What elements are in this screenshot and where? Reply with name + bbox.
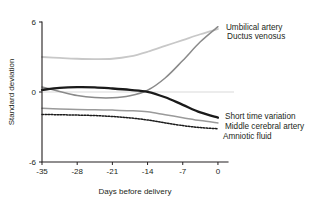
x-tick-label: -35 (36, 167, 48, 176)
series-label-ductus-venosus: Ductus venosus (227, 32, 285, 41)
x-axis-tick-labels: -35-28-21-14-70 (36, 162, 221, 176)
series-label-amniotic-fluid: Amniotic fluid (223, 132, 272, 141)
x-tick-label: 0 (216, 167, 221, 176)
x-tick-label: -14 (142, 167, 154, 176)
x-tick-label: -28 (71, 167, 83, 176)
x-tick-label: -7 (179, 167, 187, 176)
series-line-middle-cerebral-artery (42, 108, 218, 123)
y-tick-label: -6 (29, 158, 37, 167)
x-axis-title: Days before delivery (99, 187, 172, 196)
x-tick-label: -21 (107, 167, 119, 176)
series-line-umbilical-artery (42, 29, 218, 59)
series-label-middle-cerebral-artery: Middle cerebral artery (225, 122, 305, 131)
series-curves (42, 27, 218, 129)
series-annotations: Umbilical arteryDuctus venosusShort time… (223, 23, 305, 141)
chart-container: -35-28-21-14-70 60-6 Umbilical arteryDuc… (0, 0, 310, 207)
y-axis-title: Standard deviation (7, 59, 16, 126)
y-tick-label: 0 (32, 88, 37, 97)
series-line-amniotic-fluid (42, 114, 218, 128)
series-label-short-time-variation: Short time variation (225, 112, 296, 121)
y-tick-label: 6 (32, 18, 37, 27)
line-chart-svg: -35-28-21-14-70 60-6 Umbilical arteryDuc… (0, 0, 310, 207)
y-axis-tick-labels: 60-6 (29, 18, 42, 167)
series-label-umbilical-artery: Umbilical artery (226, 23, 283, 32)
